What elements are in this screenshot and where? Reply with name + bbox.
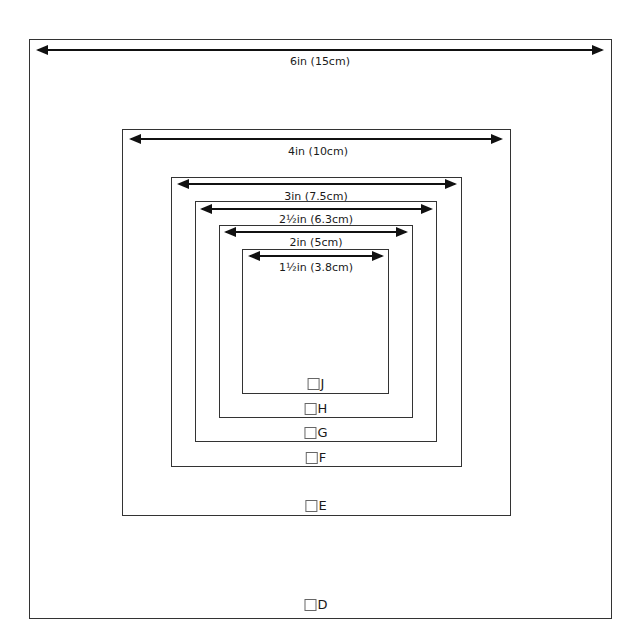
option-j[interactable]: J <box>308 376 325 391</box>
dimension-arrow-d <box>38 49 602 51</box>
option-d-label: D <box>317 597 327 612</box>
option-e[interactable]: E <box>305 498 326 513</box>
dimension-arrow-j <box>250 255 382 257</box>
dimension-arrow-e <box>131 138 501 140</box>
size-label-e: 4in (10cm) <box>288 145 348 158</box>
option-j-label: J <box>321 376 325 391</box>
option-d[interactable]: D <box>304 597 327 612</box>
dimension-arrow-h <box>226 231 406 233</box>
dimension-arrow-f <box>179 183 455 185</box>
option-g[interactable]: G <box>304 425 327 440</box>
checkbox-d[interactable] <box>304 599 316 611</box>
checkbox-h[interactable] <box>305 403 317 415</box>
size-label-h: 2in (5cm) <box>290 236 343 249</box>
option-f[interactable]: F <box>306 450 326 465</box>
size-label-d: 6in (15cm) <box>290 55 350 68</box>
checkbox-g[interactable] <box>304 427 316 439</box>
checkbox-j[interactable] <box>308 378 320 390</box>
option-h-label: H <box>318 401 328 416</box>
checkbox-f[interactable] <box>306 452 318 464</box>
checkbox-e[interactable] <box>305 500 317 512</box>
size-label-j: 1½in (3.8cm) <box>279 261 353 274</box>
option-h[interactable]: H <box>305 401 328 416</box>
dimension-arrow-g <box>202 208 431 210</box>
option-e-label: E <box>318 498 326 513</box>
option-g-label: G <box>317 425 327 440</box>
option-f-label: F <box>319 450 326 465</box>
